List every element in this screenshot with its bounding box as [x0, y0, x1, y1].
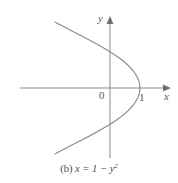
origin-label: 0: [99, 90, 105, 101]
y-axis-label: y: [98, 13, 103, 24]
x-tick-label-1: 1: [139, 92, 145, 103]
x-axis-label: x: [164, 91, 169, 102]
parabola-plot: [0, 0, 178, 160]
figure-caption: (b) x = 1 − y2: [0, 163, 178, 175]
y-axis-arrowhead: [107, 16, 114, 24]
caption-exponent: 2: [114, 162, 118, 170]
caption-prefix: (b): [60, 163, 72, 174]
caption-equation: x = 1 − y: [75, 163, 114, 174]
figure-container: y x 0 1 (b) x = 1 − y2: [0, 0, 178, 183]
